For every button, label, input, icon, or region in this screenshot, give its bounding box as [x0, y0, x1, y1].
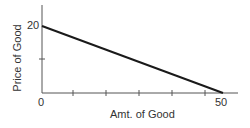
- demand-line: [42, 26, 223, 93]
- x-tick-label-50: 50: [215, 96, 227, 108]
- x-axis-label: Amt. of Good: [110, 108, 175, 120]
- origin-label: 0: [38, 96, 44, 108]
- y-tick-label-20: 20: [27, 19, 39, 31]
- y-axis-label: Price of Good: [11, 23, 23, 93]
